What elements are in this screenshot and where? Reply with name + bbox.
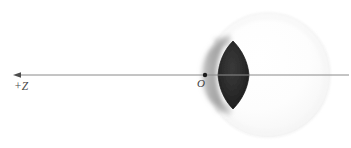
axis-direction-label: +Z [14,80,29,92]
origin-label: O [197,77,205,89]
eye-model-diagram: +Z O [0,0,351,148]
figure-container: +Z O [0,0,351,148]
